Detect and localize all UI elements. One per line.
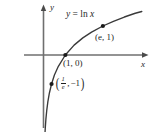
point-marker-e bbox=[101, 24, 105, 28]
point-marker-one-zero bbox=[63, 53, 67, 57]
x-axis bbox=[24, 52, 149, 58]
paren-open: ( bbox=[56, 76, 60, 91]
curve-equation-label: y = ln x bbox=[66, 10, 95, 20]
paren-close: ) bbox=[81, 76, 85, 91]
point-label-one-zero: (1, 0) bbox=[63, 59, 83, 68]
point-label-e: (e, 1) bbox=[95, 33, 114, 42]
y-axis-label: y bbox=[50, 3, 54, 12]
x-axis-label: x bbox=[141, 60, 145, 69]
ln-curve bbox=[44, 12, 141, 133]
point-label-y-value: −1 bbox=[70, 79, 81, 88]
fraction-denominator: e bbox=[61, 83, 66, 91]
point-marker-inv-e bbox=[49, 82, 53, 86]
y-axis bbox=[41, 5, 46, 129]
fraction-one-over-e: 1 e bbox=[61, 76, 66, 91]
point-label-inverse-e: ( 1 e , −1 ) bbox=[55, 76, 85, 91]
log-function-figure: y x y = ln x (e, 1) (1, 0) ( 1 e , −1 ) bbox=[0, 0, 155, 132]
equation-function-name: ln bbox=[80, 9, 88, 19]
fraction-numerator: 1 bbox=[61, 76, 66, 83]
equation-argument: x bbox=[90, 9, 94, 19]
